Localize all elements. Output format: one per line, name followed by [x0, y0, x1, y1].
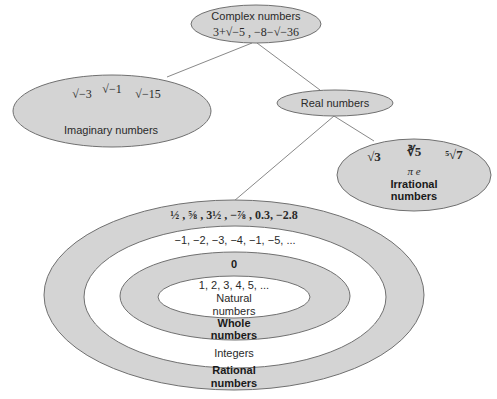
whole-label-line2: numbers: [211, 329, 257, 341]
imaginary-example-2: √−1: [102, 82, 121, 96]
natural-examples: 1, 2, 3, 4, 5, ...: [199, 279, 269, 291]
rational-numbers-node: ½ , ⅝ , 3½ , −⅞ , 0.3, −2.8 −1, −2, −3, …: [44, 200, 424, 390]
imaginary-example-3: √−15: [135, 87, 160, 101]
imaginary-numbers-node: √−3 √−1 √−15 Imaginary numbers: [13, 75, 211, 147]
imaginary-label: Imaginary numbers: [64, 124, 159, 136]
imaginary-example-1: √−3: [72, 87, 91, 101]
rational-label-line2: numbers: [211, 377, 257, 389]
edge-real-irrational: [334, 116, 374, 141]
edge-complex-real: [257, 43, 320, 90]
whole-label-line1: Whole: [218, 317, 251, 329]
irrational-label-line1: Irrational: [390, 178, 437, 190]
rational-examples: ½ , ⅝ , 3½ , −⅞ , 0.3, −2.8: [170, 208, 298, 222]
complex-label: Complex numbers: [211, 10, 301, 22]
irrational-label-line2: numbers: [391, 190, 437, 202]
integers-examples: −1, −2, −3, −4, −1, −5, ...: [174, 234, 295, 246]
complex-numbers-node: Complex numbers 3+√−5 , −8−√−36: [191, 5, 321, 43]
irrational-example-3: ⁵√7: [445, 147, 463, 162]
irrational-numbers-node: √3 ∛5 ⁵√7 π e Irrational numbers: [337, 139, 491, 211]
irrational-example-2: ∛5: [407, 144, 422, 159]
natural-label-line2: numbers: [213, 305, 256, 317]
complex-examples: 3+√−5 , −8−√−36: [213, 25, 299, 39]
rational-label-line1: Rational: [212, 364, 255, 376]
whole-examples: 0: [231, 258, 237, 270]
edge-complex-imaginary: [167, 43, 252, 77]
natural-label-line1: Natural: [216, 292, 251, 304]
number-system-diagram: Complex numbers 3+√−5 , −8−√−36 √−3 √−1 …: [0, 0, 497, 399]
irrational-example-1: √3: [367, 149, 381, 164]
irrational-constants: π e: [407, 165, 420, 177]
real-label: Real numbers: [301, 97, 370, 109]
real-numbers-node: Real numbers: [277, 90, 393, 116]
integers-label: Integers: [214, 347, 254, 359]
edge-real-rational: [234, 116, 334, 201]
